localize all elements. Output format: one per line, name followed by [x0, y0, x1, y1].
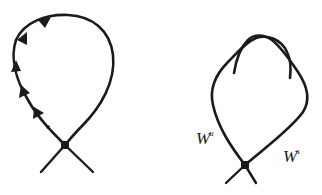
outgoing-unstable-leg: [65, 145, 93, 172]
label-superscript: u: [209, 128, 214, 138]
unstable-manifold-label: Wu: [196, 130, 214, 147]
incoming-stable-leg: [41, 145, 65, 172]
left-panel-homoclinic-loop: [11, 15, 113, 172]
saddle-point-left: [61, 141, 69, 149]
arrow-icon: [11, 60, 21, 72]
unstable-manifold-curve: [212, 37, 291, 165]
flow-marker-dot: [46, 125, 50, 129]
label-superscript: s: [296, 146, 300, 156]
stable-manifold-label: Ws: [283, 148, 300, 165]
diagram-canvas: [0, 0, 322, 195]
homoclinic-orbit: [14, 15, 114, 145]
saddle-point-right: [241, 161, 249, 169]
